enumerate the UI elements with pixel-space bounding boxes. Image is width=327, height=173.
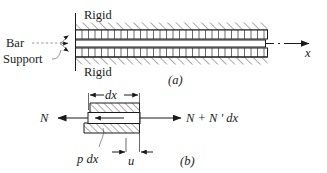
rigid-bottom-hatch: [76, 57, 268, 65]
bar-member: [76, 40, 266, 47]
callout-p-dx: p dx: [76, 128, 104, 166]
element-block-bottom: [84, 123, 140, 133]
leader-to-support-bottom: [60, 44, 69, 52]
figure-axially-loaded-bar-on-elastic-support: x Rigid Rigid Bar Support: [0, 0, 327, 173]
rigid-bottom-label: Rigid: [84, 65, 113, 79]
support-leader-line: [52, 50, 61, 59]
figure-a-group: x Rigid Rigid Bar Support: [3, 8, 311, 79]
p-dx-label: p dx: [76, 152, 99, 166]
rigid-foundation-bottom: [76, 57, 268, 65]
dx-label: dx: [105, 88, 117, 102]
force-n-right: N + N ' dx: [140, 111, 239, 125]
rigid-top-label: Rigid: [84, 8, 113, 22]
bar-label: Bar: [6, 36, 25, 50]
support-bottom-band: [76, 48, 268, 57]
rigid-foundation-top: [76, 23, 268, 31]
n-left-label: N: [39, 111, 49, 125]
caption-a: (a): [168, 73, 183, 87]
callout-bar: Bar: [6, 36, 69, 52]
u-dimension: u: [112, 138, 153, 168]
support-top-band: [76, 30, 268, 39]
x-axis-label: x: [304, 46, 311, 60]
x-axis-group: x: [266, 44, 311, 61]
elastic-support-bottom: [76, 48, 268, 57]
support-label: Support: [3, 52, 43, 66]
caption-b: (b): [180, 154, 195, 168]
leader-to-support-top: [60, 36, 69, 44]
element-block-top: [90, 103, 140, 113]
force-n-left: N: [39, 111, 88, 125]
elastic-support-top: [76, 30, 268, 39]
bar-body: [76, 40, 266, 47]
element-bottom-hatch: [84, 123, 140, 133]
rigid-top-hatch: [76, 23, 268, 31]
figure-b-group: dx N: [39, 88, 239, 168]
figure-canvas: x Rigid Rigid Bar Support: [0, 0, 327, 173]
element-bar-slab: [88, 113, 140, 124]
callout-support: Support: [3, 50, 61, 66]
u-label: u: [128, 154, 134, 168]
n-right-label: N + N ' dx: [185, 111, 239, 125]
element-top-hatch: [90, 103, 140, 113]
